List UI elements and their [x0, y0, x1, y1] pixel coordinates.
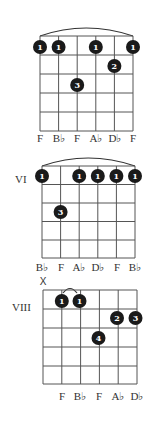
finger-dot: 3 [129, 311, 143, 325]
note-label: F [59, 390, 65, 402]
barre-arc [63, 289, 77, 294]
finger-dot: 1 [73, 294, 87, 308]
note-label: B♭ [74, 390, 86, 403]
chord-diagram-3: 1 1 2 3 4 X VIII F B♭ F A♭ D♭ [0, 0, 167, 422]
fret-position-label: VIII [12, 301, 31, 313]
note-label: D♭ [131, 390, 144, 403]
note-label: A♭ [112, 390, 125, 403]
chord-3-fretboard: 1 1 2 3 4 [0, 0, 167, 422]
svg-text:2: 2 [114, 313, 120, 323]
note-label: F [96, 390, 102, 402]
finger-dot: 2 [110, 311, 124, 325]
svg-text:1: 1 [59, 296, 65, 306]
svg-text:1: 1 [77, 296, 83, 306]
svg-text:4: 4 [96, 333, 102, 343]
svg-text:3: 3 [133, 313, 139, 323]
finger-dot: 1 [55, 294, 69, 308]
finger-dot: 4 [92, 331, 106, 345]
muted-string-marker: X [40, 276, 47, 287]
